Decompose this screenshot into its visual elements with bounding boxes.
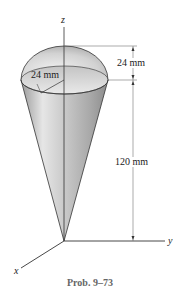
x-axis-label: x — [14, 266, 18, 276]
z-axis-label: z — [61, 15, 65, 25]
figure-caption: Prob. 9–73 — [67, 278, 113, 288]
radius-label: 24 mm — [31, 70, 59, 80]
y-axis-label: y — [168, 236, 172, 246]
cone-height-label: 120 mm — [115, 157, 148, 167]
cone-body — [21, 80, 108, 241]
hemisphere-height-label: 24 mm — [117, 58, 145, 68]
cone-hemisphere-figure — [0, 0, 184, 296]
x-axis — [21, 241, 64, 268]
